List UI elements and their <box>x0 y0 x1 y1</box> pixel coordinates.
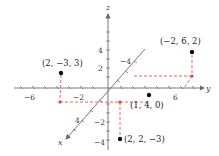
y-tick-neg2: −2 <box>73 93 84 102</box>
point-2-2-neg3: (2, 2, −3) <box>118 134 165 144</box>
coordinate-diagram: z 4 2 −2 −4 y −6 −2 6 <box>0 0 219 156</box>
z-tick-neg2: −2 <box>94 118 105 127</box>
point-label: (2, −3, 3) <box>42 58 83 68</box>
point-1-4-0: (1, 4, 0) <box>130 93 164 110</box>
x-axis-label: x <box>58 138 63 147</box>
z-axis-label: z <box>105 3 111 12</box>
z-tick-4: 4 <box>98 46 103 55</box>
z-axis: z 4 2 −2 −4 <box>94 3 111 150</box>
y-tick-neg6: −6 <box>24 93 35 102</box>
point-label: (2, 2, −3) <box>124 134 165 144</box>
point-label: (−2, 6, 2) <box>160 36 201 46</box>
point-label: (1, 4, 0) <box>130 100 164 110</box>
x-tick-4: 4 <box>75 116 80 125</box>
point-neg2-6-2: (−2, 6, 2) <box>160 36 201 54</box>
x-tick-neg4: −4 <box>120 57 131 66</box>
point-2-neg3-3: (2, −3, 3) <box>42 58 83 75</box>
y-axis-label: y <box>205 84 211 93</box>
z-tick-neg4: −4 <box>94 138 105 147</box>
z-tick-2: 2 <box>98 64 103 73</box>
y-tick-6: 6 <box>173 93 178 102</box>
